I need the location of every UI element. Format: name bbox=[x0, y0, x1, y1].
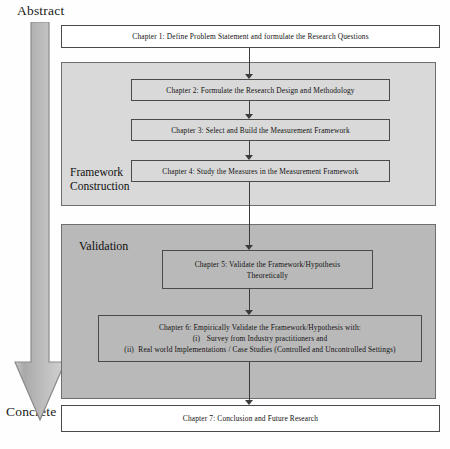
node-chapter-5-line-1: Chapter 5: Validate the Framework/Hypoth… bbox=[163, 259, 372, 270]
abstract-to-concrete-down-arrow-icon bbox=[14, 22, 66, 422]
arrowhead-ch5-to-ch6-icon bbox=[245, 310, 253, 315]
node-chapter-6-line-3-text: Real world Implementations / Case Studie… bbox=[138, 345, 395, 354]
connector-ch3-to-ch4 bbox=[249, 141, 250, 156]
node-chapter-1-label: Chapter 1: Define Problem Statement and … bbox=[132, 31, 368, 42]
arrowhead-ch4-to-ch5-icon bbox=[245, 245, 253, 250]
node-chapter-5[interactable]: Chapter 5: Validate the Framework/Hypoth… bbox=[162, 250, 373, 289]
node-chapter-6-roman-i: (i) bbox=[193, 333, 207, 344]
node-chapter-6-roman-ii: (ii) bbox=[124, 344, 138, 355]
arrowhead-ch3-to-ch4-icon bbox=[245, 155, 253, 160]
node-chapter-3-label: Chapter 3: Select and Build the Measurem… bbox=[171, 125, 350, 136]
node-chapter-4-label: Chapter 4: Study the Measures in the Mea… bbox=[162, 166, 358, 177]
node-chapter-6-line-1: Chapter 6: Empirically Validate the Fram… bbox=[99, 322, 421, 333]
node-chapter-7-label: Chapter 7: Conclusion and Future Researc… bbox=[183, 413, 318, 424]
panel-title-validation: Validation bbox=[79, 240, 128, 254]
connector-ch5-to-ch6 bbox=[249, 289, 250, 311]
panel-title-framework-construction: Framework Construction bbox=[70, 166, 129, 193]
node-chapter-6-line-2-text: Survey from Industry practitioners and bbox=[207, 334, 328, 343]
arrowhead-ch1-to-ch2-icon bbox=[245, 74, 253, 79]
node-chapter-6[interactable]: Chapter 6: Empirically Validate the Fram… bbox=[98, 315, 422, 362]
arrowhead-ch2-to-ch3-icon bbox=[245, 114, 253, 119]
node-chapter-7[interactable]: Chapter 7: Conclusion and Future Researc… bbox=[61, 405, 440, 432]
node-chapter-4[interactable]: Chapter 4: Study the Measures in the Mea… bbox=[131, 160, 390, 182]
node-chapter-2[interactable]: Chapter 2: Formulate the Research Design… bbox=[131, 79, 390, 101]
connector-ch1-to-ch2 bbox=[249, 48, 250, 75]
node-chapter-3[interactable]: Chapter 3: Select and Build the Measurem… bbox=[131, 119, 390, 141]
node-chapter-5-label: Chapter 5: Validate the Framework/Hypoth… bbox=[163, 259, 372, 281]
node-chapter-6-line-2: (i)Survey from Industry practitioners an… bbox=[99, 333, 421, 344]
flowchart-diagram: Abstract Concrete Framework Construction… bbox=[0, 0, 450, 449]
arrowhead-ch6-to-ch7-icon bbox=[245, 400, 253, 405]
axis-label-abstract: Abstract bbox=[17, 3, 64, 19]
node-chapter-2-label: Chapter 2: Formulate the Research Design… bbox=[166, 85, 354, 96]
connector-ch4-to-ch5 bbox=[249, 182, 250, 246]
node-chapter-6-label: Chapter 6: Empirically Validate the Fram… bbox=[99, 322, 421, 355]
node-chapter-6-line-3: (ii)Real world Implementations / Case St… bbox=[99, 344, 421, 355]
node-chapter-1[interactable]: Chapter 1: Define Problem Statement and … bbox=[61, 25, 440, 48]
connector-ch2-to-ch3 bbox=[249, 101, 250, 115]
node-chapter-5-line-2: Theoretically bbox=[163, 270, 372, 281]
connector-ch6-to-ch7 bbox=[249, 362, 250, 401]
